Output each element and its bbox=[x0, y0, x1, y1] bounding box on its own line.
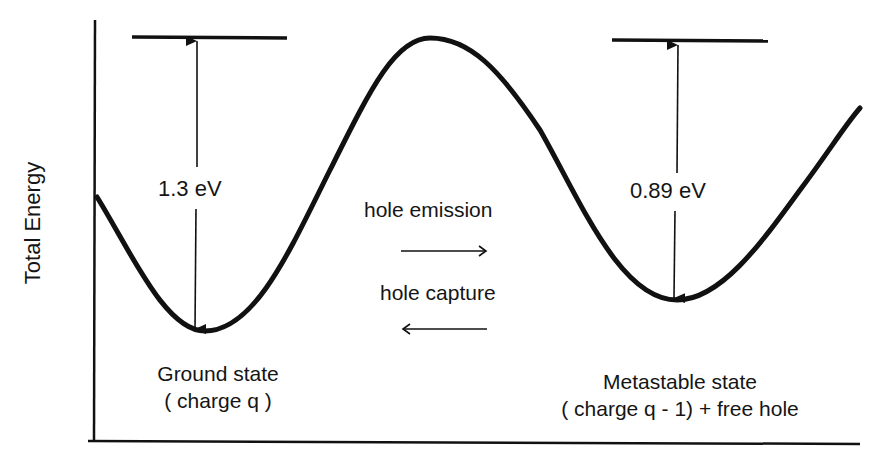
metastable-state-charge: ( charge q - 1) + free hole bbox=[520, 395, 840, 422]
hole-emission-label: hole emission bbox=[364, 198, 492, 222]
ground-state-label: Ground state ( charge q ) bbox=[123, 360, 313, 414]
y-axis-label: Total Energy bbox=[20, 113, 46, 333]
left-energy-arrow-down bbox=[195, 209, 196, 329]
right-energy-arrow-up bbox=[677, 45, 678, 173]
right-energy-arrow-down bbox=[674, 211, 675, 298]
right-arrow-icon bbox=[401, 246, 486, 256]
hole-capture-label: hole capture bbox=[380, 281, 496, 305]
metastable-state-name: Metastable state bbox=[520, 368, 840, 395]
x-axis bbox=[88, 441, 860, 444]
ground-state-name: Ground state bbox=[123, 360, 313, 387]
left-barrier-energy-label: 1.3 eV bbox=[156, 174, 224, 204]
metastable-state-label: Metastable state ( charge q - 1) + free … bbox=[520, 368, 840, 422]
y-axis bbox=[94, 20, 95, 441]
right-barrier-level bbox=[612, 40, 768, 41]
ground-state-charge: ( charge q ) bbox=[123, 387, 313, 414]
right-barrier-energy-label: 0.89 eV bbox=[628, 176, 708, 206]
left-arrow-icon bbox=[403, 324, 487, 334]
left-barrier-level bbox=[132, 37, 287, 38]
